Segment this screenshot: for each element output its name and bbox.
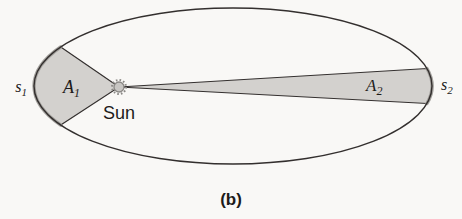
area-a2-subscript: 2 <box>376 84 382 98</box>
sun-label: Sun <box>103 103 135 123</box>
sun-disk <box>114 82 124 92</box>
area-a1-subscript: 1 <box>74 86 80 100</box>
orbit-diagram-canvas: s1 A1 Sun A2 s2 (b) <box>0 0 462 219</box>
area-a2-letter: A <box>365 76 377 95</box>
arc-s2-subscript: 2 <box>447 84 453 96</box>
arc-s1-subscript: 1 <box>22 86 28 98</box>
figure-caption: (b) <box>220 190 242 209</box>
kepler-orbit-figure: s1 A1 Sun A2 s2 (b) <box>0 0 462 219</box>
